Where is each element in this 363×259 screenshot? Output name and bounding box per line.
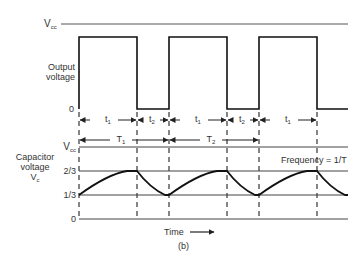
level-vcc-label: Vcc bbox=[52, 142, 76, 155]
capacitor-voltage-curve bbox=[79, 171, 348, 195]
interval-label: t2 bbox=[233, 114, 251, 127]
level-zero-label: 0 bbox=[52, 214, 76, 224]
vcc-label: Vcc bbox=[44, 19, 57, 32]
level-two-thirds-label: 2/3 bbox=[52, 166, 76, 176]
interval-label: t1 bbox=[188, 114, 208, 127]
output-square-wave bbox=[79, 37, 348, 109]
time-axis-label: Time bbox=[164, 227, 184, 237]
level-one-third-label: 1/3 bbox=[52, 190, 76, 200]
dashed-time-markers bbox=[79, 112, 317, 219]
interval-label: t2 bbox=[143, 114, 161, 127]
figure-label: (b) bbox=[178, 241, 189, 251]
interval-label: t1 bbox=[98, 114, 118, 127]
period-label: T1 bbox=[111, 134, 131, 147]
zero-label-top: 0 bbox=[69, 104, 74, 114]
output-voltage-label: Output voltage bbox=[30, 62, 75, 82]
period-label: T2 bbox=[201, 134, 221, 147]
interval-label: t1 bbox=[278, 114, 298, 127]
frequency-annotation: Frequency = 1/T bbox=[281, 155, 347, 165]
